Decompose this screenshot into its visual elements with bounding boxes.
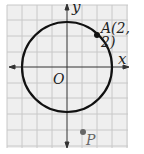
point-a-label: A(2, 2)	[101, 21, 144, 49]
y-axis-label: y	[72, 0, 80, 15]
point-a	[94, 32, 100, 38]
x-axis-label: x	[118, 52, 126, 67]
point-p-label: P	[86, 133, 95, 147]
origin-label: O	[53, 72, 64, 86]
